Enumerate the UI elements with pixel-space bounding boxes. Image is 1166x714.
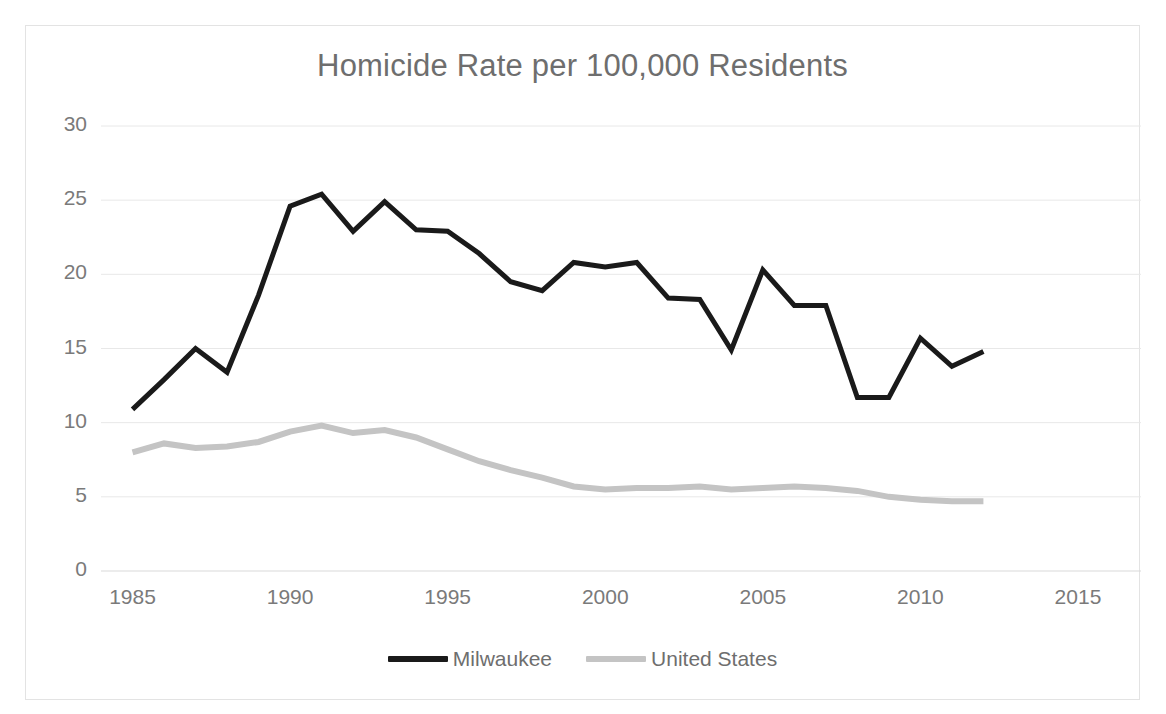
legend-item-milwaukee[interactable]: Milwaukee — [388, 647, 552, 671]
legend-label: United States — [651, 647, 777, 671]
gridlines — [101, 126, 1141, 571]
x-axis-tick-label: 2010 — [875, 585, 965, 609]
chart-legend: MilwaukeeUnited States — [26, 647, 1139, 671]
chart-card: Homicide Rate per 100,000 Residents 3025… — [25, 25, 1140, 700]
x-axis-tick-label: 2005 — [718, 585, 808, 609]
x-axis-tick-label: 2000 — [560, 585, 650, 609]
y-axis-tick-label: 15 — [27, 335, 87, 359]
y-axis-tick-label: 0 — [27, 557, 87, 581]
legend-swatch — [388, 656, 448, 662]
y-axis-tick-label: 30 — [27, 112, 87, 136]
y-axis-tick-label: 10 — [27, 409, 87, 433]
data-series-group — [133, 194, 984, 501]
legend-swatch — [586, 656, 646, 662]
x-axis-tick-label: 2015 — [1033, 585, 1123, 609]
legend-item-united-states[interactable]: United States — [586, 647, 777, 671]
plot-area: 302520151050 198519901995200020052010201… — [26, 26, 1141, 701]
series-line-milwaukee — [133, 194, 984, 409]
y-axis-tick-label: 20 — [27, 260, 87, 284]
y-axis-tick-label: 25 — [27, 186, 87, 210]
legend-label: Milwaukee — [453, 647, 552, 671]
y-axis-tick-label: 5 — [27, 483, 87, 507]
x-axis-tick-label: 1995 — [403, 585, 493, 609]
x-axis-tick-label: 1985 — [88, 585, 178, 609]
x-axis-tick-label: 1990 — [245, 585, 335, 609]
series-line-united-states — [133, 426, 984, 502]
